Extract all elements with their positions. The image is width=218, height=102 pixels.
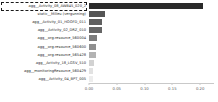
category-label[interactable]: agg__Activity_18_LGSV_510 xyxy=(36,60,86,66)
bar[interactable] xyxy=(89,27,102,33)
category-label[interactable]: static__Milieu (vergunning) xyxy=(38,11,86,17)
bar-row[interactable] xyxy=(89,11,214,17)
category-label[interactable]: agg__org:resource_560600 xyxy=(37,44,86,50)
bar[interactable] xyxy=(89,60,94,66)
bar[interactable] xyxy=(89,35,97,41)
x-tick-label: 0.10 xyxy=(140,86,148,91)
plot-area xyxy=(89,2,214,83)
bar-row[interactable] xyxy=(89,60,214,66)
bar[interactable] xyxy=(89,52,96,58)
selection-box[interactable] xyxy=(1,2,87,11)
x-tick-label: 0.20 xyxy=(196,86,204,91)
bar[interactable] xyxy=(89,3,203,9)
bar[interactable] xyxy=(89,19,102,25)
x-tick-label: 0.05 xyxy=(113,86,121,91)
category-label[interactable]: agg__monitoringResource_560429 xyxy=(24,68,86,74)
bar[interactable] xyxy=(89,11,105,17)
bar-row[interactable] xyxy=(89,35,214,41)
x-tick-label: 0.15 xyxy=(168,86,176,91)
category-label[interactable]: agg__Activity_04_BPT_005 xyxy=(39,76,86,82)
bar-row[interactable] xyxy=(89,68,214,74)
x-tick-label: 0.00 xyxy=(85,86,93,91)
category-label[interactable]: agg__org:resource_560004 xyxy=(37,35,86,41)
category-label[interactable]: agg__org:resource_565428 xyxy=(37,52,86,58)
bar-row[interactable] xyxy=(89,76,214,82)
category-label[interactable]: agg__Activity_01_HOOFD_011 xyxy=(32,19,86,25)
feature-importance-chart: agg__Activity_08_AWB45_020_2static__Mili… xyxy=(0,0,218,102)
bar-row[interactable] xyxy=(89,27,214,33)
bar-row[interactable] xyxy=(89,19,214,25)
category-axis-labels: agg__Activity_08_AWB45_020_2static__Mili… xyxy=(0,2,88,83)
x-axis-line xyxy=(89,83,214,84)
x-axis-ticks: 0.000.050.100.150.20 xyxy=(89,85,214,95)
x-tick-mark xyxy=(172,83,173,85)
x-tick-mark xyxy=(89,83,90,85)
bar[interactable] xyxy=(89,68,93,74)
bar[interactable] xyxy=(89,76,93,82)
bar[interactable] xyxy=(89,44,96,50)
bar-row[interactable] xyxy=(89,52,214,58)
category-label[interactable]: agg__Activity_02_DRZ_010 xyxy=(38,27,86,33)
x-tick-mark xyxy=(144,83,145,85)
bar-row[interactable] xyxy=(89,44,214,50)
x-tick-mark xyxy=(116,83,117,85)
x-tick-mark xyxy=(200,83,201,85)
bar-row[interactable] xyxy=(89,3,214,9)
